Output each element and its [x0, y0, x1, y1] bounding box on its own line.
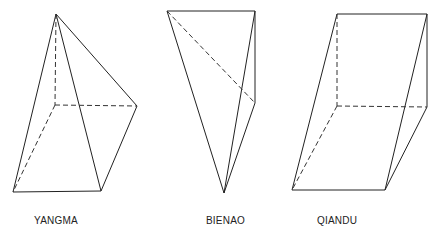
yangma-hidden-edge — [13, 105, 55, 192]
qiandu-hidden-edge — [337, 106, 427, 107]
yangma-edge — [13, 191, 101, 192]
bienao-label: BIENAO — [206, 215, 245, 226]
bienao-hidden-edge — [167, 11, 255, 103]
bienao-edge — [224, 103, 255, 193]
qiandu-edge — [385, 14, 427, 190]
yangma-hidden-edge — [55, 105, 137, 106]
yangma-label: YANGMA — [34, 215, 78, 226]
bienao-edge — [224, 11, 255, 193]
yangma-edge — [101, 106, 137, 191]
solids-diagram — [0, 0, 437, 245]
bienao-edge — [167, 11, 224, 193]
qiandu-label: QIANDU — [317, 215, 357, 226]
yangma-hidden-edge — [55, 14, 56, 105]
qiandu-solid — [292, 14, 427, 190]
yangma-edge — [13, 14, 56, 192]
qiandu-hidden-edge — [292, 106, 337, 190]
qiandu-edge — [385, 107, 427, 190]
yangma-solid — [13, 14, 137, 192]
qiandu-edge — [292, 14, 337, 190]
yangma-edge — [56, 14, 101, 191]
bienao-solid — [167, 11, 255, 193]
